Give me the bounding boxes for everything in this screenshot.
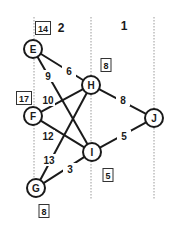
stage-label: 1 [121,19,128,33]
value-box-I: 5 [103,169,113,182]
value-box-label: 17 [19,94,29,104]
node-E: E [24,40,42,58]
node-label: I [91,147,94,158]
network-diagram: 21 69101213385 EFGHIJ 1417858 [0,0,173,228]
value-box-F: 17 [17,92,32,105]
node-J: J [145,109,163,127]
edge-weight-E-I: 9 [45,71,51,82]
edge-weight-G-I: 3 [67,164,73,175]
edge-weight-G-H: 13 [43,155,55,166]
node-label: G [32,183,40,194]
node-I: I [83,143,101,161]
edge-weight-I-J: 5 [121,131,127,142]
value-box-label: 5 [105,171,110,181]
stage-label: 2 [58,21,65,35]
node-H: H [82,76,100,94]
edge-weight-F-H: 10 [42,95,54,106]
node-label: J [151,113,157,124]
value-box-label: 8 [103,61,108,71]
value-box-label: 8 [41,207,46,217]
stage-labels: 21 [58,19,128,35]
value-box-E: 14 [36,22,51,35]
edge-weight-F-I: 12 [42,131,54,142]
node-F: F [24,107,42,125]
edge-weight-E-H: 6 [66,66,72,77]
node-G: G [27,179,45,197]
value-box-G: 8 [39,205,49,218]
node-label: F [30,111,36,122]
node-label: E [30,44,37,55]
edge-weight-H-J: 8 [120,95,126,106]
node-label: H [87,80,94,91]
value-box-H: 8 [101,59,111,72]
value-box-label: 14 [38,24,48,34]
